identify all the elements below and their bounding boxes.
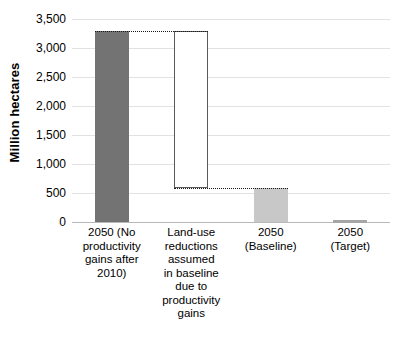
x-label-3: 2050 (Target) (311, 226, 391, 253)
bar-chart: Million hectares 05001,0001,5002,0002,50… (0, 0, 398, 355)
y-tick-label: 500 (46, 187, 66, 199)
y-tick-label: 3,000 (36, 42, 66, 54)
x-label-1: Land-use reductions assumed in baseline … (152, 226, 232, 321)
bar-0 (95, 31, 129, 222)
plot-area (72, 19, 390, 222)
y-tick-label: 2,500 (36, 71, 66, 83)
y-tick-label: 3,500 (36, 13, 66, 25)
bar-1 (174, 31, 208, 188)
x-label-0: 2050 (No productivity gains after 2010) (72, 226, 152, 280)
y-axis-title: Million hectares (0, 0, 30, 225)
y-axis-title-text: Million hectares (8, 63, 23, 163)
x-axis-category-labels: 2050 (No productivity gains after 2010)L… (72, 226, 390, 352)
y-tick-label: 0 (59, 216, 66, 228)
x-label-2: 2050 (Baseline) (231, 226, 311, 253)
y-tick-label: 1,500 (36, 129, 66, 141)
bottom-connector (174, 188, 288, 189)
top-connector (95, 31, 209, 32)
y-tick-label: 1,000 (36, 158, 66, 170)
bar-3 (333, 220, 367, 223)
y-tick-label: 2,000 (36, 100, 66, 112)
y-axis-tick-labels: 05001,0001,5002,0002,5003,0003,500 (28, 0, 70, 240)
gridline-3500 (72, 19, 390, 20)
bar-2 (254, 188, 288, 222)
